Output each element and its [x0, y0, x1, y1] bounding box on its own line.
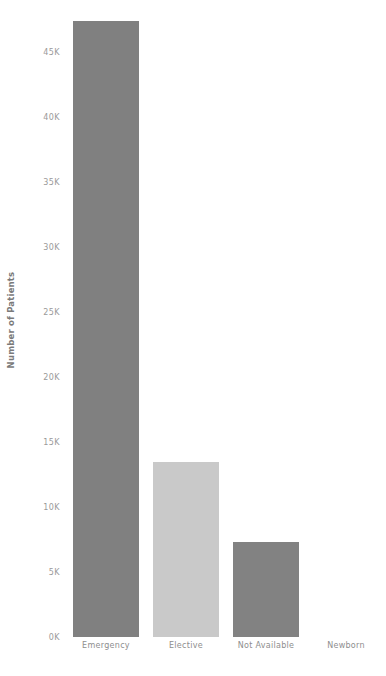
x-axis-tick-labels: EmergencyElectiveNot AvailableNewborn — [66, 641, 386, 663]
bar-slot — [146, 0, 226, 637]
y-axis-tick-label: 5K — [49, 568, 60, 577]
y-axis-tick-label: 40K — [43, 113, 60, 122]
y-axis-tick-label: 10K — [43, 503, 60, 512]
bar-slot — [226, 0, 306, 637]
plot-area — [66, 0, 386, 637]
x-axis-tick-label: Elective — [146, 641, 226, 650]
y-axis-tick-label: 25K — [43, 308, 60, 317]
bar[interactable] — [233, 542, 299, 637]
x-axis-tick-label: Emergency — [66, 641, 146, 650]
y-axis-tick-label: 15K — [43, 438, 60, 447]
bar-chart: Number of Patients 0K5K10K15K20K25K30K35… — [0, 0, 386, 676]
bar[interactable] — [153, 462, 219, 638]
y-axis-tick-label: 30K — [43, 243, 60, 252]
y-axis-title: Number of Patients — [0, 0, 22, 640]
y-axis-tick-label: 45K — [43, 48, 60, 57]
bar-slot — [66, 0, 146, 637]
bar-slot — [306, 0, 386, 637]
bar[interactable] — [73, 21, 139, 637]
x-axis-tick-label: Not Available — [226, 641, 306, 650]
x-axis-tick-label: Newborn — [306, 641, 386, 650]
y-axis-tick-label: 0K — [49, 633, 60, 642]
y-axis-tick-label: 35K — [43, 178, 60, 187]
y-axis-tick-labels: 0K5K10K15K20K25K30K35K40K45K — [22, 0, 66, 676]
y-axis-title-label: Number of Patients — [6, 272, 16, 369]
y-axis-tick-label: 20K — [43, 373, 60, 382]
